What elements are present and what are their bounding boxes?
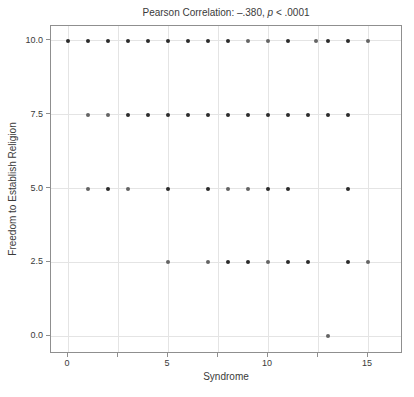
data-point — [346, 260, 350, 264]
data-point — [86, 187, 90, 191]
x-tick-mark — [67, 353, 68, 357]
data-point — [326, 39, 330, 43]
data-point — [226, 187, 230, 191]
data-point — [106, 39, 110, 43]
data-point — [206, 260, 210, 264]
data-point — [346, 113, 350, 117]
data-point — [126, 39, 130, 43]
x-tick-mark — [317, 353, 318, 357]
y-tick-label: 0.0 — [0, 330, 43, 340]
data-point — [226, 113, 230, 117]
data-point — [206, 39, 210, 43]
data-point — [146, 113, 150, 117]
data-point — [86, 39, 90, 43]
data-point — [286, 39, 290, 43]
plot-area — [50, 25, 402, 353]
y-tick-label: 7.5 — [0, 109, 43, 119]
data-point — [86, 113, 90, 117]
x-tick-mark — [217, 353, 218, 357]
data-point — [346, 39, 350, 43]
data-point — [286, 113, 290, 117]
data-point — [106, 187, 110, 191]
data-point — [246, 187, 250, 191]
chart-title: Pearson Correlation: –.380, p < .0001 — [50, 7, 402, 18]
data-point — [314, 39, 318, 43]
x-tick-label: 0 — [64, 358, 69, 368]
y-tick-mark — [46, 187, 50, 188]
x-tick-label: 15 — [362, 358, 372, 368]
data-point — [66, 39, 70, 43]
data-point — [366, 39, 370, 43]
data-point — [166, 39, 170, 43]
data-point — [106, 113, 110, 117]
data-point — [166, 260, 170, 264]
data-point — [366, 260, 370, 264]
x-tick-mark — [367, 353, 368, 357]
data-point — [186, 39, 190, 43]
x-tick-label: 10 — [262, 358, 272, 368]
scatter-plot-figure: Pearson Correlation: –.380, p < .0001 Sy… — [0, 0, 414, 397]
data-point — [246, 113, 250, 117]
y-tick-mark — [46, 261, 50, 262]
y-tick-label: 10.0 — [0, 35, 43, 45]
data-point — [266, 113, 270, 117]
data-point — [326, 113, 330, 117]
data-point — [266, 260, 270, 264]
data-point — [246, 260, 250, 264]
chart-title-prefix: Pearson Correlation: –.380, — [142, 7, 267, 18]
data-point — [346, 187, 350, 191]
y-tick-mark — [46, 335, 50, 336]
data-point — [286, 260, 290, 264]
data-point — [246, 39, 250, 43]
data-point — [306, 260, 310, 264]
data-point — [206, 113, 210, 117]
y-tick-label: 5.0 — [0, 183, 43, 193]
y-tick-mark — [46, 113, 50, 114]
data-point — [206, 187, 210, 191]
data-point — [126, 113, 130, 117]
data-point — [266, 39, 270, 43]
x-axis-label: Syndrome — [50, 371, 402, 382]
y-tick-mark — [46, 39, 50, 40]
data-point — [326, 334, 330, 338]
y-tick-label: 2.5 — [0, 256, 43, 266]
y-gridline — [51, 336, 401, 337]
data-point — [226, 260, 230, 264]
data-point — [146, 39, 150, 43]
data-point — [166, 113, 170, 117]
chart-title-suffix: < .0001 — [273, 7, 309, 18]
data-point — [266, 187, 270, 191]
data-point — [126, 187, 130, 191]
x-tick-mark — [167, 353, 168, 357]
data-point — [186, 113, 190, 117]
data-point — [166, 187, 170, 191]
data-point — [286, 187, 290, 191]
data-point — [226, 39, 230, 43]
x-tick-mark — [267, 353, 268, 357]
x-tick-label: 5 — [164, 358, 169, 368]
x-tick-mark — [117, 353, 118, 357]
data-point — [306, 113, 310, 117]
